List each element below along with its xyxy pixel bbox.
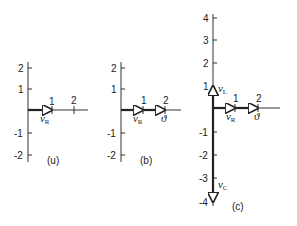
vr-label: ᴠR [133,112,143,126]
y-tick-label: 2 [203,58,209,69]
vr-label: ᴠR [226,110,236,124]
vl-label: ᴠL [218,82,227,96]
x-tick-label: 1 [233,93,239,104]
y-tick-label: 1 [111,84,117,95]
y-tick-label: 1 [203,81,209,92]
x-tick-label: 1 [141,95,147,106]
y-tick-label: 1 [18,84,24,95]
x-tick-label: 2 [256,93,262,104]
s-label: ϑ [161,112,167,124]
panel-label: (b) [140,155,152,166]
panel-c: 4 3 2 1 -1 -2 -3 -4 1 2 ᴠL ᴠR ϑ ᴠC (c) [199,13,280,212]
y-tick-label: 3 [203,35,209,46]
y-tick-label: -3 [199,173,208,184]
y-tick-label: -2 [14,150,23,161]
x-tick-label: 2 [163,95,169,106]
x-tick-label: 1 [49,96,55,107]
panel-label: (c) [232,201,244,212]
panel-b: 2 1 -1 -2 1 2 ᴠR ϑ (b) [107,62,181,166]
y-tick-label: 2 [18,63,24,74]
s-label: ϑ [254,110,260,122]
vc-label: ᴠC [218,178,228,192]
y-tick-label: -4 [199,197,208,208]
y-tick-label: 2 [111,63,117,74]
y-ticks [121,68,125,155]
vr-label: ᴠR [40,112,50,126]
panel-a: 2 1 -1 -2 1 2 ᴠR (u) [14,62,88,166]
y-tick-label: -2 [199,150,208,161]
x-tick-label: 2 [71,95,77,106]
y-tick-label: -1 [14,128,23,139]
panel-label: (u) [47,155,59,166]
y-ticks [28,68,32,155]
y-tick-label: 4 [203,13,209,24]
y-tick-label: -2 [107,150,116,161]
y-tick-label: -1 [199,127,208,138]
phasor-diagrams: 2 1 -1 -2 1 2 ᴠR (u) 2 1 -1 -2 1 2 ᴠR ϑ … [0,0,297,226]
y-tick-label: -1 [107,128,116,139]
